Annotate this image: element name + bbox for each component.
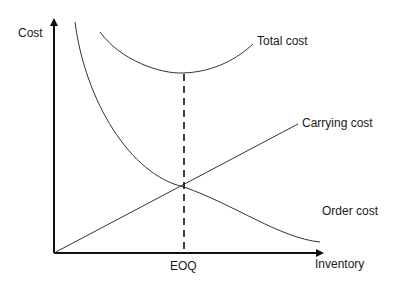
total-cost-label: Total cost [257, 34, 308, 48]
total-cost-curve [100, 32, 253, 73]
eoq-chart: Cost Inventory EOQ Total cost Carrying c… [0, 0, 393, 285]
y-axis-label: Cost [18, 26, 43, 40]
carrying-cost-label: Carrying cost [302, 116, 373, 130]
x-axis-label: Inventory [315, 257, 364, 271]
eoq-tick-label: EOQ [170, 259, 197, 273]
carrying-cost-line [54, 124, 298, 253]
order-cost-label: Order cost [322, 204, 379, 218]
